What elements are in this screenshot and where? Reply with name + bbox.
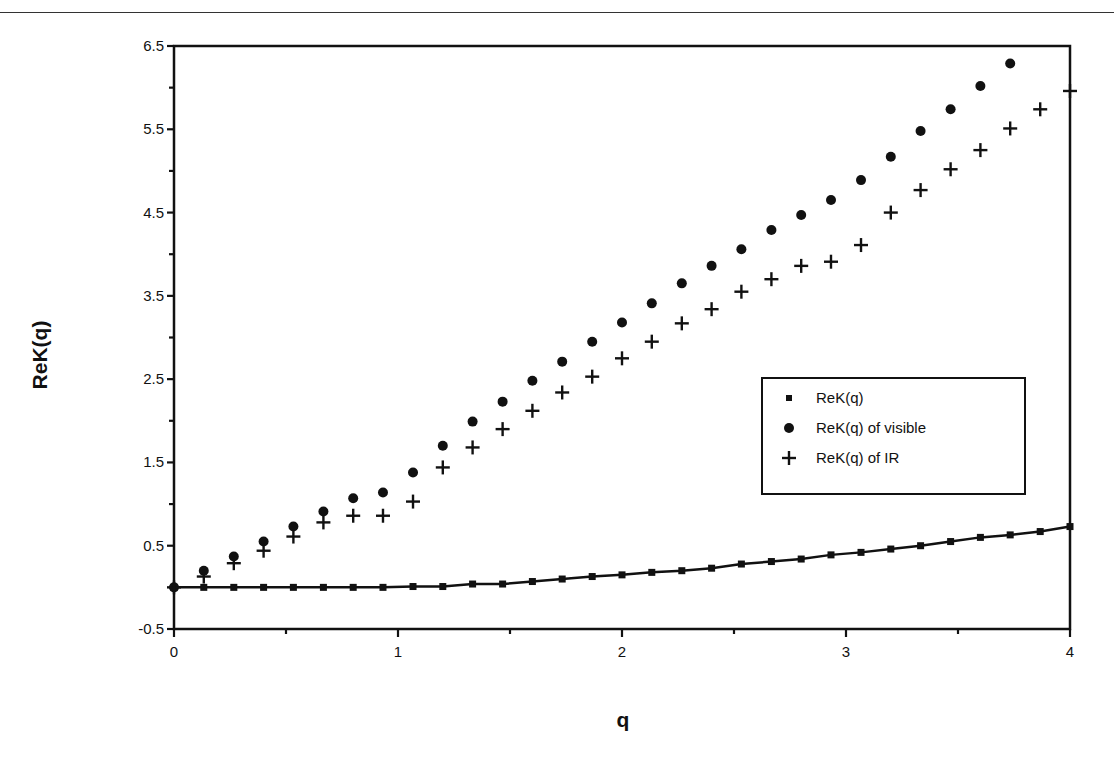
square-marker	[827, 551, 834, 558]
square-marker	[917, 542, 924, 549]
circle-marker	[975, 81, 985, 91]
y-tick-label: 1.5	[143, 453, 164, 470]
plus-marker	[227, 556, 241, 570]
x-tick-label: 0	[170, 643, 178, 660]
plus-marker	[675, 316, 689, 330]
plus-marker	[1033, 102, 1047, 116]
square-marker	[947, 538, 954, 545]
circle-marker	[348, 493, 358, 503]
y-axis: -0.50.51.52.53.54.55.56.5	[138, 37, 174, 637]
square-marker	[1037, 528, 1044, 535]
y-tick-label: -0.5	[138, 620, 164, 637]
data-series	[167, 58, 1077, 594]
plus-marker	[585, 370, 599, 384]
square-marker	[379, 584, 386, 591]
square-marker	[678, 567, 685, 574]
legend-box	[762, 378, 1025, 494]
y-tick-label: 2.5	[143, 370, 164, 387]
plus-marker	[705, 302, 719, 316]
plus-marker	[316, 515, 330, 529]
circle-marker	[318, 507, 328, 517]
square-marker	[260, 584, 267, 591]
y-tick-label: 0.5	[143, 537, 164, 554]
plus-marker	[1063, 84, 1077, 98]
plus-marker	[376, 509, 390, 523]
plus-marker	[525, 404, 539, 418]
circle-marker	[498, 397, 508, 407]
square-marker	[977, 534, 984, 541]
square-marker	[350, 584, 357, 591]
square-marker	[887, 546, 894, 553]
circle-marker	[557, 357, 567, 367]
legend: ReK(q)ReK(q) of visibleReK(q) of IR	[762, 378, 1025, 494]
plus-marker	[167, 580, 181, 594]
x-axis: 01234	[170, 629, 1074, 660]
plus-marker	[884, 206, 898, 220]
square-marker	[738, 561, 745, 568]
plus-marker	[645, 335, 659, 349]
square-marker	[290, 584, 297, 591]
x-axis-title: q	[617, 708, 630, 731]
x-tick-label: 4	[1066, 643, 1074, 660]
square-marker	[589, 573, 596, 580]
square-marker	[768, 558, 775, 565]
circle-marker	[408, 467, 418, 477]
circle-marker	[856, 175, 866, 185]
plus-marker	[914, 183, 928, 197]
circle-marker	[587, 337, 597, 347]
series-rek-q-of-visible	[169, 58, 1015, 592]
circle-marker	[1005, 58, 1015, 68]
x-tick-label: 3	[842, 643, 850, 660]
plot-border	[174, 46, 1070, 629]
x-tick-label: 1	[394, 643, 402, 660]
circle-marker	[647, 298, 657, 308]
circle-marker	[378, 487, 388, 497]
plus-marker	[496, 422, 510, 436]
square-marker	[410, 583, 417, 590]
plus-marker	[257, 544, 271, 558]
plus-marker	[286, 530, 300, 544]
circle-marker	[617, 318, 627, 328]
plus-marker	[944, 162, 958, 176]
square-marker	[648, 569, 655, 576]
square-marker	[708, 565, 715, 572]
scatter-chart: -0.50.51.52.53.54.55.56.5 01234 ReK(q)Re…	[0, 0, 1114, 769]
square-marker	[1067, 523, 1074, 530]
plus-marker	[466, 440, 480, 454]
series-rek-q-	[171, 523, 1074, 591]
square-marker	[499, 581, 506, 588]
plus-marker	[973, 143, 987, 157]
y-tick-label: 6.5	[143, 37, 164, 54]
circle-marker	[707, 261, 717, 271]
plus-marker	[734, 285, 748, 299]
plus-marker	[854, 238, 868, 252]
square-marker	[320, 584, 327, 591]
legend-label: ReK(q) of visible	[816, 419, 926, 436]
circle-marker	[826, 195, 836, 205]
square-marker	[1007, 531, 1014, 538]
circle-marker	[527, 376, 537, 386]
plot-frame	[174, 46, 1070, 629]
square-marker	[619, 571, 626, 578]
square-marker	[439, 583, 446, 590]
legend-square-icon	[786, 395, 792, 401]
series-rek-q-of-ir	[167, 84, 1077, 594]
y-tick-label: 3.5	[143, 287, 164, 304]
circle-marker	[766, 225, 776, 235]
square-marker	[200, 584, 207, 591]
square-marker	[559, 576, 566, 583]
plus-marker	[436, 460, 450, 474]
x-tick-label: 2	[618, 643, 626, 660]
square-marker	[230, 584, 237, 591]
legend-label: ReK(q)	[816, 389, 864, 406]
y-tick-label: 4.5	[143, 204, 164, 221]
y-tick-label: 5.5	[143, 120, 164, 137]
plus-marker	[346, 509, 360, 523]
circle-marker	[916, 126, 926, 136]
legend-label: ReK(q) of IR	[816, 449, 900, 466]
square-marker	[469, 581, 476, 588]
circle-marker	[946, 104, 956, 114]
plus-marker	[824, 255, 838, 269]
square-marker	[858, 549, 865, 556]
circle-marker	[736, 244, 746, 254]
